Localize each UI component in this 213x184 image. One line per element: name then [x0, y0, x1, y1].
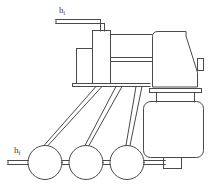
middle-rail-pair — [111, 58, 153, 62]
lower-drum-body — [144, 102, 204, 158]
roller-1 — [28, 146, 62, 180]
technical-diagram: hi hf — [0, 0, 213, 184]
base-plate — [73, 84, 151, 87]
pedestal-legs — [157, 93, 195, 103]
upper-supply-pipe — [56, 20, 101, 24]
support-strut-group — [44, 87, 142, 146]
label-inlet-head: hi — [59, 6, 65, 15]
flange-plate — [150, 89, 202, 93]
housing-side-tab — [198, 59, 204, 71]
diagram-canvas — [0, 0, 213, 184]
label-inlet-head-symbol: h — [59, 5, 64, 15]
tall-column-box — [93, 31, 111, 84]
label-final-head-symbol: h — [14, 145, 19, 155]
label-inlet-head-subscript: i — [64, 10, 66, 16]
label-final-head-subscript: f — [19, 150, 21, 156]
roller-2 — [69, 146, 103, 180]
drum-foot-nub — [164, 158, 182, 169]
short-side-box — [77, 49, 93, 84]
main-housing — [153, 32, 198, 87]
label-final-head: hf — [14, 146, 21, 155]
roller-3 — [110, 146, 144, 180]
pipe-elbow-riser — [101, 20, 105, 32]
